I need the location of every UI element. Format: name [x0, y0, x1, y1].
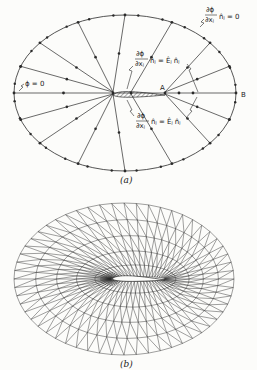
- caption-a: (a): [120, 175, 133, 185]
- finite-element-figure: ∂ϕ ∂xⱼ n̂ⱼ = 0 ϕ = 0 ∂ϕ ∂xⱼ n̂ⱼ = Êⱼ n̂ⱼ…: [0, 0, 257, 370]
- panel-a-boundary-conditions: [13, 14, 238, 173]
- outer-boundary-condition-label: ∂ϕ ∂xⱼ n̂ⱼ = 0: [200, 6, 239, 27]
- svg-text:∂xⱼ: ∂xⱼ: [136, 122, 145, 130]
- svg-text:ϕ = 0: ϕ = 0: [25, 80, 44, 88]
- svg-text:n̂ⱼ = Êⱼ n̂ⱼ: n̂ⱼ = Êⱼ n̂ⱼ: [151, 117, 181, 126]
- svg-text:∂xⱼ: ∂xⱼ: [135, 60, 144, 68]
- lower-surface-condition-label: ∂ϕ ∂xⱼ n̂ⱼ = Êⱼ n̂ⱼ: [127, 97, 197, 130]
- svg-text:∂ϕ: ∂ϕ: [136, 50, 145, 58]
- svg-text:∂xⱼ: ∂xⱼ: [205, 16, 214, 24]
- caption-b: (b): [120, 359, 133, 369]
- point-b-label: B: [241, 91, 246, 99]
- far-field-potential-label: ϕ = 0: [19, 80, 44, 91]
- svg-text:∂ϕ: ∂ϕ: [137, 112, 146, 120]
- panel-b-mesh: [14, 203, 234, 355]
- point-a-label: A: [160, 84, 165, 92]
- svg-text:n̂ⱼ = Êⱼ n̂ⱼ: n̂ⱼ = Êⱼ n̂ⱼ: [150, 56, 180, 65]
- svg-text:n̂ⱼ = 0: n̂ⱼ = 0: [219, 13, 239, 21]
- svg-text:∂ϕ: ∂ϕ: [206, 6, 215, 14]
